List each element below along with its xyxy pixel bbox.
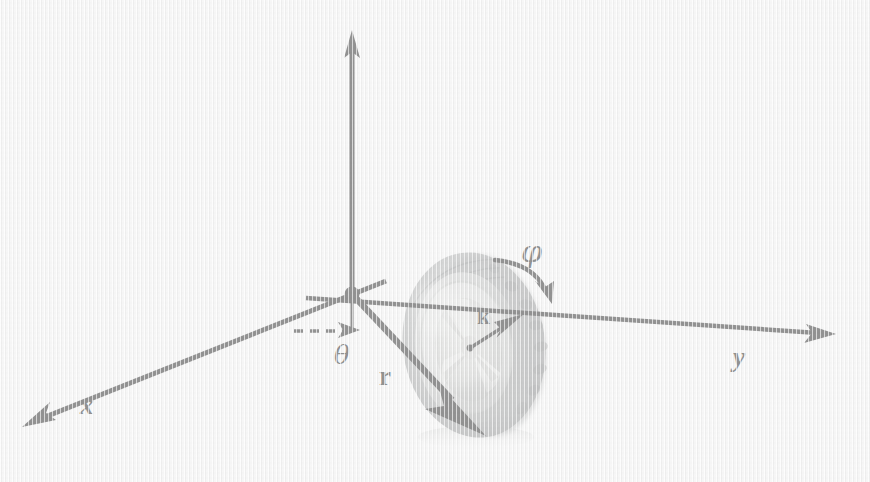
wheel-center-dot — [467, 345, 474, 352]
figure-canvas: x y r k θ φ — [0, 0, 870, 482]
theta-arrowhead — [338, 322, 360, 338]
y-axis-label: y — [733, 344, 745, 371]
theta-angle-label: θ — [334, 342, 350, 368]
x-axis-label: x — [80, 392, 94, 419]
r-vector-label: r — [379, 363, 391, 390]
y-axis — [306, 298, 836, 343]
phi-angle-label: φ — [521, 237, 542, 267]
z-axis — [344, 30, 360, 294]
k-vector-label: k — [477, 305, 490, 328]
origin-node — [345, 287, 360, 302]
x-axis — [22, 281, 386, 427]
coordinate-diagram — [0, 0, 870, 482]
